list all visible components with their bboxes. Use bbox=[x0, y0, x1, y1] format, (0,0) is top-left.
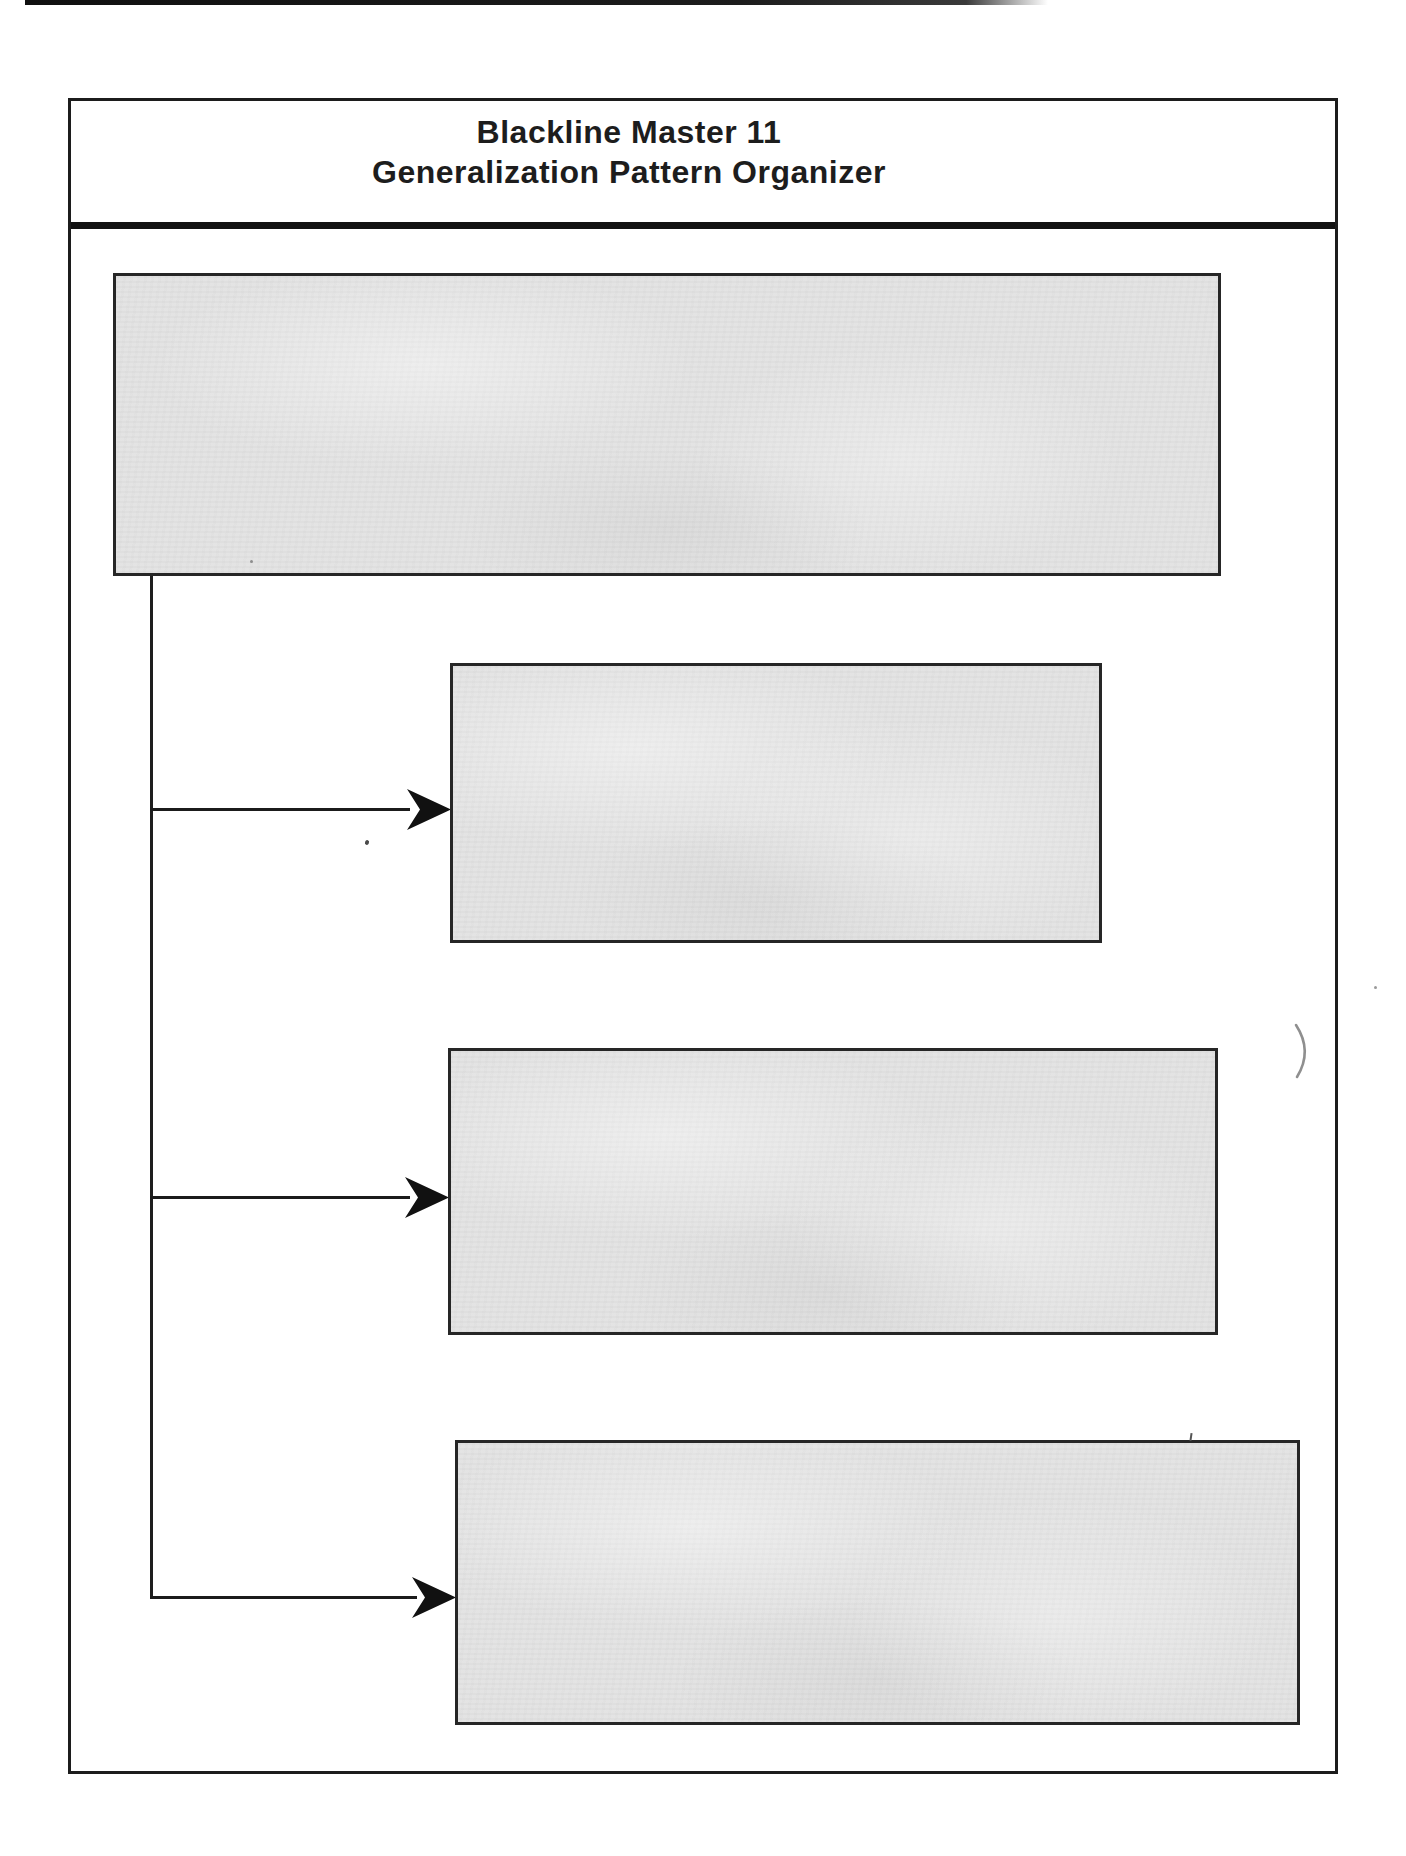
detail-box-1 bbox=[450, 663, 1102, 943]
scan-speck bbox=[1374, 986, 1377, 989]
stray-pen-mark bbox=[1292, 1022, 1316, 1080]
connector-vertical-line bbox=[150, 576, 153, 1599]
page-title: Blackline Master 11 bbox=[68, 112, 1190, 152]
page-subtitle: Generalization Pattern Organizer bbox=[68, 152, 1190, 192]
detail-box-3 bbox=[455, 1440, 1300, 1725]
generalization-box bbox=[113, 273, 1221, 576]
title-block: Blackline Master 11 Generalization Patte… bbox=[68, 112, 1190, 192]
title-divider-rule bbox=[71, 222, 1335, 229]
arrowhead-icon bbox=[412, 1577, 456, 1618]
branch-arrow-line-1 bbox=[150, 808, 410, 811]
arrowhead-icon bbox=[405, 1177, 449, 1218]
branch-arrow-line-2 bbox=[150, 1196, 410, 1199]
detail-box-2 bbox=[448, 1048, 1218, 1335]
arrowhead-icon bbox=[407, 789, 451, 830]
page-top-rule bbox=[25, 0, 1048, 5]
branch-arrow-line-3 bbox=[150, 1596, 417, 1599]
scan-speck bbox=[250, 560, 253, 563]
scanned-worksheet-page: Blackline Master 11 Generalization Patte… bbox=[0, 0, 1406, 1856]
